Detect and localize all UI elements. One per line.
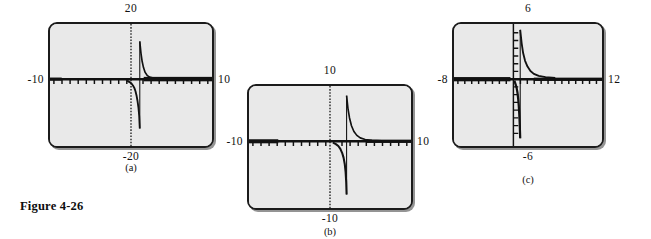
panel-b-label-left: -10 [226,135,243,147]
panel-b-sub-caption: (b) [324,226,336,237]
graph-panel-c [452,22,604,148]
panel-a-label-left: -10 [27,73,44,85]
panel-b-label-right: 10 [417,135,429,147]
right-tail-c [534,78,602,81]
figure-caption: Figure 4-26 [20,199,83,214]
graph-panel-a [48,22,214,148]
panel-c-sub-caption: (c) [522,174,534,185]
graph-panel-b [247,84,413,210]
panel-a-label-top: 20 [125,2,137,14]
left-tail-a [50,78,62,81]
panel-b-label-top: 10 [324,64,336,76]
graph-b-svg [249,86,411,208]
figure-4-26: 20 -20 -10 10 (a) [0,0,651,239]
panel-a-label-bottom: -20 [123,150,140,162]
graph-a-svg [50,24,212,146]
plot-background-c [454,24,602,146]
panel-a-label-right: 10 [218,73,230,85]
panel-c-label-left: -8 [438,73,448,85]
panel-c-label-right: 12 [608,73,620,85]
panel-c-label-top: 6 [525,2,531,14]
panel-a-sub-caption: (a) [125,162,137,173]
graph-c-svg [454,24,602,146]
panel-b-label-bottom: -10 [322,212,339,224]
panel-c-label-bottom: -6 [523,150,533,162]
left-tail-b [249,139,278,143]
left-tail-c [454,77,510,81]
